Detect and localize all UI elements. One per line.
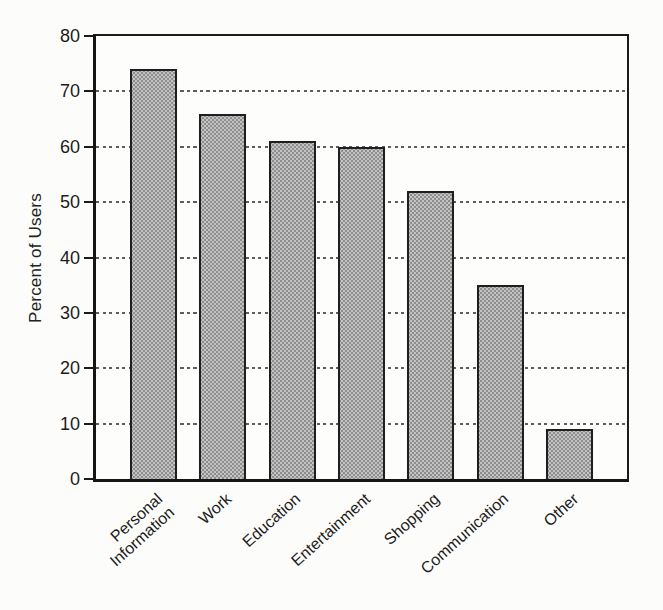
bar-communication: [477, 285, 524, 479]
y-tick-60: [84, 146, 93, 148]
x-label-other: Other: [540, 490, 582, 530]
x-label-education: Education: [239, 490, 304, 551]
bar-work: [199, 114, 246, 479]
bar-entertainment: [338, 147, 385, 479]
x-label-work: Work: [195, 490, 235, 528]
y-tick-label-50: 50: [34, 191, 80, 213]
y-tick-label-20: 20: [34, 357, 80, 379]
plot-area: [93, 34, 629, 482]
y-tick-80: [84, 35, 93, 37]
y-tick-50: [84, 201, 93, 203]
y-tick-label-0: 0: [34, 468, 80, 490]
x-label-personal-information: Personal Information: [94, 490, 177, 570]
y-tick-label-70: 70: [34, 80, 80, 102]
bar-chart-figure: Percent of Users 01020304050607080 Perso…: [0, 0, 663, 610]
y-tick-label-40: 40: [34, 247, 80, 269]
bar-education: [269, 141, 316, 479]
y-tick-70: [84, 90, 93, 92]
bar-other: [546, 429, 593, 479]
y-tick-label-80: 80: [34, 25, 80, 47]
y-tick-10: [84, 423, 93, 425]
x-label-shopping: Shopping: [381, 490, 443, 549]
y-tick-label-60: 60: [34, 136, 80, 158]
y-tick-0: [84, 478, 93, 480]
y-tick-label-10: 10: [34, 413, 80, 435]
bar-personal-information: [130, 69, 177, 479]
y-tick-label-30: 30: [34, 302, 80, 324]
y-tick-20: [84, 367, 93, 369]
y-tick-30: [84, 312, 93, 314]
y-tick-40: [84, 257, 93, 259]
bar-shopping: [407, 191, 454, 479]
